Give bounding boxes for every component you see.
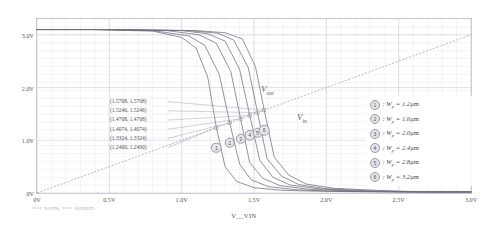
coordinate-label: (1.5708, 1.5708) xyxy=(110,97,147,106)
coordinate-label: (1.4074, 1.4074) xyxy=(110,125,147,134)
coordinate-label: (1.4708, 1.4708) xyxy=(110,115,147,124)
x-tick-label: 0.5V xyxy=(103,196,115,203)
coordinate-label: (1.5246, 1.5246) xyxy=(110,106,147,115)
y-tick-label: 2.0V xyxy=(22,84,34,91)
chart-root: 0V1.0V2.0V3.0V 0V0.5V1.0V1.5V2.0V2.5V3.0… xyxy=(0,0,488,229)
vin-subscript: in xyxy=(303,118,307,124)
x-tick-label: 3.0V xyxy=(465,196,477,203)
curve-marker-6[interactable]: 6 xyxy=(259,125,270,136)
x-tick-label: 2.0V xyxy=(320,196,332,203)
legend-badge-icon: 1 xyxy=(370,100,380,110)
legend-row[interactable]: 5: Wp = 2.8μm xyxy=(370,156,476,170)
trace-legend: V(VIN) V(VOUT) xyxy=(30,206,95,211)
legend-badge-icon: 2 xyxy=(370,114,380,124)
y-axis-ticks: 0V1.0V2.0V3.0V xyxy=(0,0,34,229)
coordinate-label: (1.3324, 1.3324) xyxy=(110,134,147,143)
legend-row[interactable]: 6: Wp = 3.2μm xyxy=(370,171,476,185)
legend-badge-icon: 5 xyxy=(370,158,380,168)
coordinate-annotation-list: (1.5708, 1.5708)(1.5246, 1.5246)(1.4708,… xyxy=(110,97,147,152)
legend-label: : Wp = 1.2μm xyxy=(383,100,419,109)
leader-layer xyxy=(168,102,266,148)
vin-annotation-label: Vin xyxy=(297,112,307,124)
legend-row[interactable]: 4: Wp = 2.4μm xyxy=(370,142,476,156)
legend-label: : Wp = 2.8μm xyxy=(383,158,419,167)
curve-marker-2[interactable]: 2 xyxy=(225,137,236,148)
x-axis-title: V__VIN xyxy=(0,212,488,219)
trace-legend-vout-swatch xyxy=(63,208,72,209)
vout-subscript: out xyxy=(267,90,274,96)
y-tick-label: 1.0V xyxy=(22,137,34,144)
trace-legend-vin-label: V(VIN) xyxy=(44,206,59,211)
vout-annotation-label: Vout xyxy=(261,84,274,96)
x-tick-label: 2.5V xyxy=(393,196,405,203)
x-tick-label: 1.0V xyxy=(176,196,188,203)
curve-marker-1[interactable]: 1 xyxy=(211,142,222,153)
legend-row[interactable]: 2: Wp = 1.6μm xyxy=(370,113,476,127)
trace-legend-vout-label: V(VOUT) xyxy=(75,206,95,211)
x-tick-label: 1.5V xyxy=(248,196,260,203)
legend-box: 1: Wp = 1.2μm2: Wp = 1.6μm3: Wp = 2.0μm4… xyxy=(366,96,476,186)
legend-label: : Wp = 3.2μm xyxy=(383,173,419,182)
legend-label: : Wp = 2.4μm xyxy=(383,144,419,153)
legend-label: : Wp = 2.0μm xyxy=(383,129,419,138)
legend-badge-icon: 4 xyxy=(370,143,380,153)
y-tick-label: 3.0V xyxy=(22,31,34,38)
x-tick-label: 0V xyxy=(33,196,41,203)
coordinate-label: (1.2400, 1.2400) xyxy=(110,143,147,152)
legend-row[interactable]: 3: Wp = 2.0μm xyxy=(370,127,476,141)
legend-badge-icon: 6 xyxy=(370,172,380,182)
trace-legend-vin-swatch xyxy=(32,208,41,209)
legend-row[interactable]: 1: Wp = 1.2μm xyxy=(370,98,476,112)
legend-badge-icon: 3 xyxy=(370,129,380,139)
legend-label: : Wp = 1.6μm xyxy=(383,115,419,124)
